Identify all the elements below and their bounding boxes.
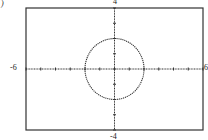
plot-area [0,0,208,140]
